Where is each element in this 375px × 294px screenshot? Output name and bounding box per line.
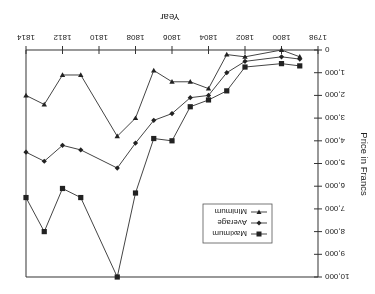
axes: 01,0002,0003,0004,0005,0006,0007,0008,00… [17,33,350,281]
x-tick-label: 1810 [90,33,108,42]
x-tick-label: 1804 [199,33,217,42]
diamond-marker-icon [279,54,284,59]
legend: Maximum Average Minimum [203,204,272,243]
square-marker-icon [188,104,193,109]
legend-label-average: Average [217,218,247,227]
x-axis-title: Year [160,12,179,23]
y-tick-label: 0 [324,45,329,54]
square-marker-icon [42,229,47,234]
series-minimum [23,47,302,138]
triangle-marker-icon [23,93,28,98]
square-marker-icon [257,232,262,237]
y-tick-label: 3,000 [324,113,345,122]
diamond-marker-icon [78,147,83,152]
y-tick-label: 5,000 [324,159,345,168]
diamond-marker-icon [23,150,28,155]
triangle-marker-icon [42,102,47,107]
square-marker-icon [206,97,211,102]
series-line [26,64,300,277]
y-tick-label: 9,000 [324,249,345,258]
square-marker-icon [151,136,156,141]
x-tick-label: 1802 [236,33,254,42]
triangle-marker-icon [224,52,229,57]
y-tick-label: 2,000 [324,90,345,99]
x-tick-label: 1800 [272,33,290,42]
y-tick-label: 8,000 [324,227,345,236]
y-tick-label: 4,000 [324,136,345,145]
square-marker-icon [23,195,28,200]
square-marker-icon [115,274,120,279]
series-maximum [23,61,302,280]
square-marker-icon [60,186,65,191]
triangle-marker-icon [133,115,138,120]
chart-svg: 01,0002,0003,0004,0005,0006,0007,0008,00… [0,0,375,294]
plot-area [23,47,302,279]
square-marker-icon [169,138,174,143]
square-marker-icon [133,190,138,195]
price-chart: 01,0002,0003,0004,0005,0006,0007,0008,00… [0,0,375,294]
square-marker-icon [78,195,83,200]
x-tick-label: 1808 [126,33,144,42]
triangle-marker-icon [151,68,156,73]
y-tick-label: 1,000 [324,68,345,77]
x-tick-label: 1814 [17,33,35,42]
y-tick-label: 7,000 [324,204,345,213]
series-line [26,50,300,136]
series-line [26,57,300,168]
square-marker-icon [297,63,302,68]
square-marker-icon [279,61,284,66]
y-tick-label: 6,000 [324,181,345,190]
square-marker-icon [224,88,229,93]
y-tick-label: 10,000 [324,272,349,281]
legend-label-maximum: Maximum [212,229,247,238]
square-marker-icon [242,64,247,69]
legend-label-minimum: Minimum [214,207,247,216]
x-tick-label: 1812 [53,33,71,42]
x-tick-label: 1806 [163,33,181,42]
diamond-marker-icon [242,59,247,64]
x-tick-label: 1798 [309,33,327,42]
y-axis-title: Price in Francs [359,132,370,196]
series-average [23,54,302,170]
chart-stage: 01,0002,0003,0004,0005,0006,0007,0008,00… [0,0,375,294]
